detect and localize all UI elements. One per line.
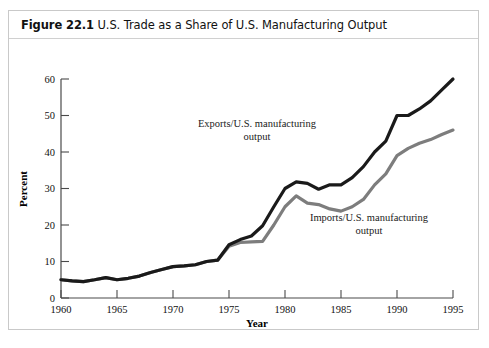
series-annotation: Imports/U.S. manufacturingoutput (310, 212, 429, 236)
chart-annotations: Exports/U.S. manufacturingoutputImports/… (198, 118, 429, 236)
figure-container: Figure 22.1 U.S. Trade as a Share of U.S… (8, 10, 479, 330)
chart-series-group (61, 79, 453, 282)
figure-title-label: U.S. Trade as a Share of U.S. Manufactur… (98, 18, 387, 32)
figure-number: Figure 22.1 (21, 18, 94, 32)
y-tick-label: 60 (45, 74, 56, 85)
annotation-line: Imports/U.S. manufacturing (310, 212, 429, 223)
x-tick-label: 1965 (107, 304, 128, 315)
y-tick-label: 40 (45, 147, 56, 158)
x-tick-label: 1995 (443, 304, 464, 315)
x-tick-label: 1970 (163, 304, 184, 315)
figure-title-bar: Figure 22.1 U.S. Trade as a Share of U.S… (9, 11, 478, 39)
x-tick-label: 1980 (275, 304, 296, 315)
x-tick-label: 1960 (51, 304, 72, 315)
x-tick-label: 1975 (219, 304, 240, 315)
y-axis-title: Percent (17, 171, 29, 207)
page-title: Figure 22.1 U.S. Trade as a Share of U.S… (21, 18, 387, 32)
chart-axes (61, 79, 453, 298)
x-tick-label: 1985 (331, 304, 352, 315)
y-tick-label: 10 (45, 256, 56, 267)
y-tick-label: 30 (45, 183, 56, 194)
series-line (61, 79, 453, 282)
x-axis-title: Year (246, 317, 268, 329)
annotation-line: output (356, 225, 383, 236)
line-chart: 0102030405060 19601965197019751980198519… (9, 39, 480, 330)
y-tick-label: 50 (45, 110, 56, 121)
plot-area: 0102030405060 19601965197019751980198519… (9, 39, 480, 330)
annotation-line: Exports/U.S. manufacturing (198, 118, 317, 129)
y-tick-label: 20 (45, 220, 56, 231)
series-line (61, 130, 453, 281)
y-tick-label: 0 (50, 293, 55, 304)
series-annotation: Exports/U.S. manufacturingoutput (198, 118, 317, 142)
annotation-line: output (244, 131, 271, 142)
y-axis-ticks: 0102030405060 (45, 74, 70, 304)
x-tick-label: 1990 (387, 304, 408, 315)
x-axis-ticks: 19601965197019751980198519901995 (51, 290, 464, 315)
